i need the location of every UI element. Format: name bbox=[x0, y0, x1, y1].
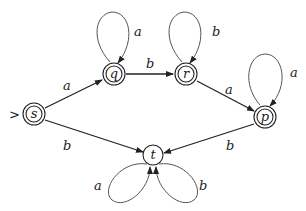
label-t-loop-a: a bbox=[94, 178, 102, 193]
state-s: s bbox=[23, 103, 45, 125]
edge-s-t: b bbox=[45, 120, 143, 153]
label-r-loop: b bbox=[212, 24, 220, 39]
state-r-label: r bbox=[183, 66, 190, 81]
loop-t-b: b bbox=[156, 164, 207, 203]
loop-q: a bbox=[97, 12, 142, 63]
label-r-p: a bbox=[225, 82, 233, 97]
label-p-loop: a bbox=[290, 65, 298, 80]
edge-r-p: a bbox=[197, 81, 254, 111]
loop-t-a: a bbox=[94, 164, 150, 203]
edge-q-r: b bbox=[126, 56, 173, 74]
label-s-q: a bbox=[63, 78, 71, 93]
state-p: p bbox=[254, 106, 276, 128]
state-p-label: p bbox=[261, 109, 270, 124]
label-q-r: b bbox=[146, 56, 154, 71]
loop-r: b bbox=[169, 12, 220, 63]
state-t-label: t bbox=[150, 147, 156, 162]
start-marker: > bbox=[9, 107, 20, 122]
edge-p-t: b bbox=[164, 124, 254, 153]
label-s-t: b bbox=[63, 138, 71, 153]
state-t: t bbox=[143, 145, 163, 165]
edge-s-q: a bbox=[45, 78, 102, 108]
state-q-label: q bbox=[110, 66, 118, 81]
label-q-loop: a bbox=[134, 24, 142, 39]
label-t-loop-b: b bbox=[199, 178, 207, 193]
loop-p: a bbox=[249, 54, 298, 106]
state-q: q bbox=[103, 63, 125, 85]
state-s-label: s bbox=[31, 106, 38, 121]
state-r: r bbox=[175, 63, 197, 85]
label-p-t: b bbox=[226, 138, 234, 153]
automaton-diagram: a b a a b a b a b b > s bbox=[0, 0, 306, 211]
